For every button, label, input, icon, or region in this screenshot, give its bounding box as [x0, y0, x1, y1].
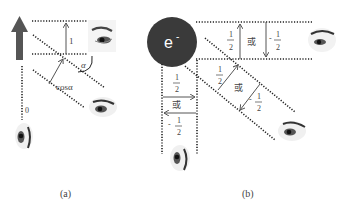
eye-icon-diagonal-b	[278, 121, 306, 141]
svg-text:-: -	[249, 95, 252, 104]
panel-a: 1 α cosα 0	[11, 16, 117, 200]
label-alpha: α	[81, 60, 86, 70]
label-zero: 0	[25, 106, 29, 115]
svg-text:2: 2	[218, 77, 222, 86]
svg-text:1: 1	[257, 92, 261, 101]
eye-icon-bottom	[15, 123, 33, 149]
svg-text:1: 1	[177, 116, 181, 125]
svg-text:2: 2	[276, 43, 280, 52]
svg-text:-: -	[269, 34, 272, 43]
svg-text:2: 2	[177, 128, 181, 137]
label-one: 1	[69, 36, 74, 46]
panel-b: e - 1 2 或 - 1 2 1 2 或 -	[147, 17, 336, 200]
svg-text:2: 2	[175, 85, 179, 94]
diagram-canvas: 1 α cosα 0	[0, 0, 344, 213]
svg-text:1: 1	[276, 30, 280, 39]
eye-icon-diagonal	[89, 97, 117, 117]
electron-label: e	[164, 34, 173, 51]
frac-num: 1	[229, 30, 233, 39]
svg-text:2: 2	[257, 104, 261, 113]
dotted-diagonal-b2	[185, 66, 275, 140]
frac-den: 2	[229, 43, 233, 52]
svg-text:或: 或	[234, 82, 243, 93]
spin-up-arrow-icon	[11, 16, 28, 60]
svg-text:1: 1	[218, 65, 222, 74]
electron-charge: -	[176, 31, 179, 42]
eye-icon-top-b	[308, 28, 336, 52]
label-cos-alpha: cosα	[56, 82, 73, 92]
svg-text:或: 或	[172, 99, 181, 110]
svg-text:-: -	[168, 120, 171, 129]
or-label: 或	[247, 36, 256, 47]
caption-b: (b)	[242, 188, 254, 200]
svg-text:1: 1	[175, 73, 179, 82]
electron-icon: e -	[147, 17, 197, 67]
eye-icon-bottom-b	[170, 145, 190, 171]
eye-icon-top	[88, 20, 116, 52]
cos-alpha-arrow	[49, 59, 63, 84]
caption-a: (a)	[60, 188, 71, 200]
